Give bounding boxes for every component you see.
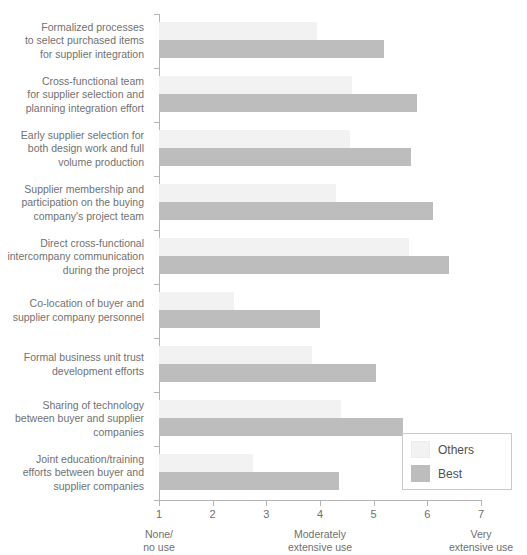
category-label: Joint education/trainingefforts between …	[0, 453, 152, 494]
x-axis-tick-label: 1	[144, 508, 174, 520]
x-axis-tick-label: 7	[466, 508, 496, 520]
category-label: Formalized processesto select purchased …	[0, 21, 152, 62]
category-label-line: Co-location of buyer and	[0, 297, 144, 311]
plot-area: 1234567None/no useModeratelyextensive us…	[159, 14, 481, 500]
axis-anchor-line: extensive use	[250, 541, 390, 554]
bar-group	[159, 130, 481, 176]
category-label-line: both design work and full	[0, 142, 144, 156]
bar-others	[159, 292, 234, 310]
bar-others	[159, 346, 312, 364]
category-label: Cross-functional teamfor supplier select…	[0, 75, 152, 116]
row-tick	[154, 284, 159, 285]
bar-others	[159, 184, 336, 202]
bar-group	[159, 76, 481, 122]
legend-swatch-best-icon	[411, 465, 430, 482]
category-label-line: intercompany communication	[0, 250, 144, 264]
category-label-line: for supplier selection and	[0, 88, 144, 102]
bar-best	[159, 472, 339, 490]
x-axis-tick-label: 6	[412, 508, 442, 520]
x-axis-tick-label: 3	[251, 508, 281, 520]
category-label-line: for supplier integration	[0, 48, 144, 62]
x-axis-tick-label: 2	[198, 508, 228, 520]
category-label-line: Formal business unit trust	[0, 351, 144, 365]
x-axis-tick-label: 5	[359, 508, 389, 520]
chart-legend: Others Best	[402, 433, 512, 490]
x-axis-tick	[159, 500, 160, 506]
legend-item-best: Best	[411, 465, 462, 482]
category-label-line: Cross-functional team	[0, 75, 144, 89]
x-axis-tick	[374, 500, 375, 506]
legend-item-others: Others	[411, 441, 474, 458]
category-label: Early supplier selection forboth design …	[0, 129, 152, 170]
category-label-line: companies	[0, 426, 144, 440]
x-axis-tick	[213, 500, 214, 506]
x-axis-tick	[481, 500, 482, 506]
category-label-line: during the project	[0, 264, 144, 278]
bar-group	[159, 292, 481, 338]
category-labels-column: Formalized processesto select purchased …	[0, 14, 152, 500]
bar-others	[159, 130, 350, 148]
row-tick	[154, 14, 159, 15]
bar-others	[159, 454, 253, 472]
legend-label-others: Others	[438, 443, 474, 457]
category-label-line: to select purchased items	[0, 34, 144, 48]
row-tick	[154, 122, 159, 123]
bar-others	[159, 400, 341, 418]
category-label: Sharing of technologybetween buyer and s…	[0, 399, 152, 440]
bar-best	[159, 202, 433, 220]
category-label-line: supplier company personnel	[0, 311, 144, 325]
category-label-line: Joint education/training	[0, 453, 144, 467]
legend-swatch-others-icon	[411, 441, 430, 458]
category-label-line: development efforts	[0, 365, 144, 379]
bar-group	[159, 346, 481, 392]
category-label-line: Formalized processes	[0, 21, 144, 35]
category-label-line: volume production	[0, 156, 144, 170]
axis-anchor-line: Very	[411, 528, 527, 541]
bar-others	[159, 76, 352, 94]
bar-group	[159, 22, 481, 68]
row-tick	[154, 392, 159, 393]
category-label-line: Sharing of technology	[0, 399, 144, 413]
axis-anchor-line: no use	[89, 541, 229, 554]
category-label-line: Supplier membership and	[0, 183, 144, 197]
axis-anchor-line: Moderately	[250, 528, 390, 541]
category-label-line: supplier companies	[0, 480, 144, 494]
x-axis-tick	[266, 500, 267, 506]
bar-best	[159, 418, 403, 436]
category-label-line: planning integration effort	[0, 102, 144, 116]
bar-others	[159, 238, 409, 256]
row-tick	[154, 176, 159, 177]
category-label-line: Early supplier selection for	[0, 129, 144, 143]
x-axis-tick-label: 4	[305, 508, 335, 520]
bar-best	[159, 94, 417, 112]
bar-best	[159, 148, 411, 166]
axis-anchor-caption: None/no use	[89, 528, 229, 554]
category-label-line: participation on the buying	[0, 196, 144, 210]
x-axis-tick	[427, 500, 428, 506]
category-label-line: company's project team	[0, 210, 144, 224]
row-tick	[154, 230, 159, 231]
category-label: Supplier membership andparticipation on …	[0, 183, 152, 224]
category-label: Co-location of buyer andsupplier company…	[0, 297, 152, 324]
row-tick	[154, 338, 159, 339]
legend-label-best: Best	[438, 467, 462, 481]
bar-group	[159, 184, 481, 230]
category-label-line: efforts between buyer and	[0, 466, 144, 480]
chart-title-strip	[0, 0, 527, 13]
axis-anchor-line: extensive use	[411, 541, 527, 554]
bar-best	[159, 40, 384, 58]
category-label: Formal business unit trustdevelopment ef…	[0, 351, 152, 378]
axis-anchor-caption: Moderatelyextensive use	[250, 528, 390, 554]
chart-container: Formalized processesto select purchased …	[0, 0, 527, 555]
bar-best	[159, 364, 376, 382]
axis-anchor-line: None/	[89, 528, 229, 541]
bar-best	[159, 310, 320, 328]
category-label-line: Direct cross-functional	[0, 237, 144, 251]
bar-group	[159, 238, 481, 284]
x-axis-tick	[320, 500, 321, 506]
category-label-line: between buyer and supplier	[0, 412, 144, 426]
axis-anchor-caption: Veryextensive use	[411, 528, 527, 554]
category-label: Direct cross-functionalintercompany comm…	[0, 237, 152, 278]
bar-best	[159, 256, 449, 274]
row-tick	[154, 446, 159, 447]
